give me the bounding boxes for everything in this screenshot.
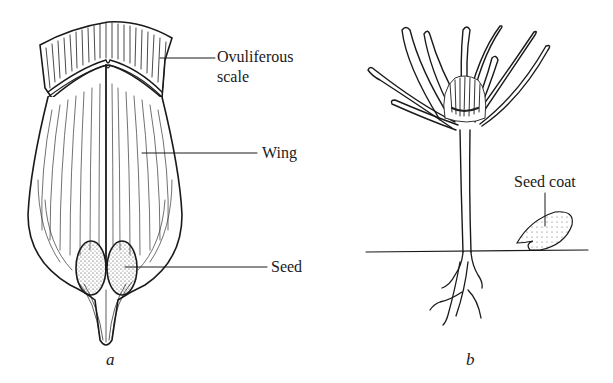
- roots: [430, 252, 482, 325]
- caption-a: a: [106, 350, 115, 370]
- hypocotyl-stem: [460, 130, 463, 252]
- caption-b: b: [466, 350, 475, 370]
- wing-shape: [28, 65, 182, 345]
- ground-line: [366, 250, 588, 252]
- label-seed: Seed: [271, 257, 302, 277]
- label-ovuliferous-line1: Ovuliferous: [217, 47, 293, 67]
- label-ovuliferous-line2: scale: [217, 67, 293, 87]
- plumule-tuft: [444, 76, 486, 122]
- label-ovuliferous-scale: Ovuliferous scale: [217, 47, 293, 87]
- figure: Ovuliferous scale Wing Seed a Seed coat …: [0, 0, 613, 383]
- label-wing: Wing: [262, 143, 297, 163]
- label-seed-coat: Seed coat: [514, 172, 576, 192]
